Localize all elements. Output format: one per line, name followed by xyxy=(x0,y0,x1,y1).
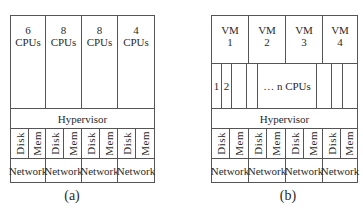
disk-cell: Disk xyxy=(285,128,304,159)
disk-cell: Disk xyxy=(10,128,29,159)
cpu-slot xyxy=(316,63,332,109)
hypervisor: Hypervisor xyxy=(10,108,155,129)
disk-cell: Disk xyxy=(211,128,230,159)
network-cell: Network xyxy=(10,158,46,183)
cpu-unit: CPUs xyxy=(123,36,149,48)
mem-cell: Mem xyxy=(303,128,323,159)
cpu-unit: CPUs xyxy=(51,36,77,48)
cpu-unit: CPUs xyxy=(87,36,113,48)
disk-cell: Disk xyxy=(117,128,136,159)
cpu-slot-range: … n CPUs xyxy=(257,63,317,109)
hypervisor: Hypervisor xyxy=(211,108,358,129)
network-cell: Network xyxy=(211,158,249,183)
vm-4: VM4 xyxy=(322,15,358,64)
vm-1: VM1 xyxy=(211,15,249,64)
cpu-count: 6 xyxy=(15,24,41,36)
network-cell: Network xyxy=(322,158,358,183)
cpu-group-3: 8CPUs xyxy=(81,15,118,109)
disk-cell: Disk xyxy=(322,128,341,159)
hypervisor-label: Hypervisor xyxy=(58,113,108,125)
caption-a: (a) xyxy=(52,187,92,205)
panel-b: VM1 VM2 VM3 VM4 1 2 … n CPUs Hypervisor … xyxy=(211,15,358,183)
hypervisor-label: Hypervisor xyxy=(260,113,310,125)
panel-a: 6CPUs 8CPUs 8CPUs 4CPUs Hypervisor Disk … xyxy=(10,15,155,183)
cpu-unit: CPUs xyxy=(15,36,41,48)
disk-cell: Disk xyxy=(45,128,64,159)
cpu-group-1: 6CPUs xyxy=(10,15,46,109)
network-cell: Network xyxy=(81,158,118,183)
mem-cell: Mem xyxy=(266,128,286,159)
disk-cell: Disk xyxy=(81,128,100,159)
vm-2: VM2 xyxy=(248,15,286,64)
network-cell: Network xyxy=(117,158,155,183)
cpu-count: 4 xyxy=(123,24,149,36)
cpu-group-4: 4CPUs xyxy=(117,15,155,109)
network-cell: Network xyxy=(45,158,82,183)
network-cell: Network xyxy=(248,158,286,183)
cpu-group-2: 8CPUs xyxy=(45,15,82,109)
vm-3: VM3 xyxy=(285,15,323,64)
cpu-slot xyxy=(342,63,358,109)
mem-cell: Mem xyxy=(135,128,155,159)
mem-cell: Mem xyxy=(229,128,249,159)
mem-cell: Mem xyxy=(28,128,46,159)
cpu-count: 8 xyxy=(51,24,77,36)
network-cell: Network xyxy=(285,158,323,183)
cpu-slot xyxy=(231,63,247,109)
mem-cell: Mem xyxy=(63,128,82,159)
cpu-count: 8 xyxy=(87,24,113,36)
disk-cell: Disk xyxy=(248,128,267,159)
caption-b: (b) xyxy=(268,187,308,205)
mem-cell: Mem xyxy=(99,128,118,159)
mem-cell: Mem xyxy=(340,128,358,159)
